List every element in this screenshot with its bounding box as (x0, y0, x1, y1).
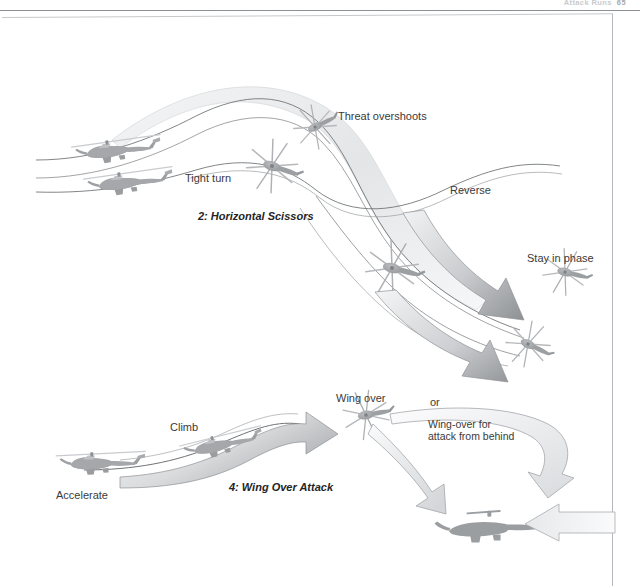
figure-wing-over-attack (55, 386, 615, 543)
label-reverse: Reverse (450, 184, 491, 197)
caption-horizontal-scissors: 2: Horizontal Scissors (198, 210, 314, 222)
scissors-ribbon-upper (112, 87, 492, 310)
label-tight-turn: Tight turn (185, 172, 231, 185)
label-or: or (430, 396, 440, 409)
label-accelerate: Accelerate (56, 489, 108, 502)
label-wing-over: Wing over (336, 392, 386, 405)
label-threat-overshoots: Threat overshoots (338, 110, 427, 123)
caption-wing-over-attack: 4: Wing Over Attack (229, 481, 333, 493)
helicopter-accelerate (55, 449, 147, 476)
label-climb: Climb (170, 421, 198, 434)
figure-horizontal-scissors (36, 87, 598, 382)
arrow-attack-run (525, 504, 615, 541)
label-wing-over-for-attack-from-behind: Wing-over for attack from behind (428, 418, 514, 443)
label-stay-in-phase: Stay in phase (527, 252, 594, 265)
helicopter-left-lower (83, 165, 176, 200)
helicopter-bottom-phase (499, 314, 564, 377)
